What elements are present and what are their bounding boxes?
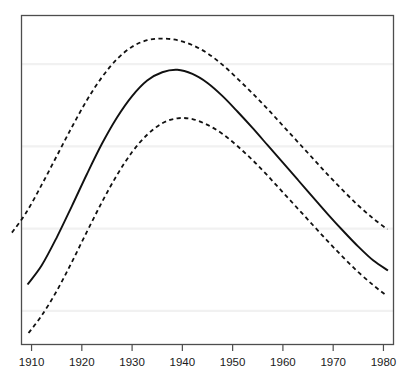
x-tick-label-1960: 1960 — [270, 356, 296, 368]
x-tick-label-1950: 1950 — [220, 356, 246, 368]
x-tick-label-1980: 1980 — [371, 356, 397, 368]
x-tick-label-1940: 1940 — [170, 356, 196, 368]
x-tick-label-1970: 1970 — [320, 356, 346, 368]
line-chart: 19101920193019401950196019701980 — [0, 0, 416, 390]
x-tick-label-1910: 1910 — [19, 356, 45, 368]
chart-container: 19101920193019401950196019701980 — [0, 0, 416, 390]
x-tick-label-1920: 1920 — [69, 356, 95, 368]
x-tick-label-1930: 1930 — [119, 356, 145, 368]
chart-background — [0, 0, 416, 390]
